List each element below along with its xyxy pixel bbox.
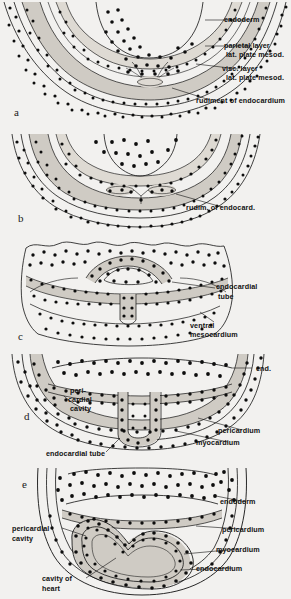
panel-c: c endocardial tube ventral mesocardium xyxy=(0,232,291,348)
label-endocardial-tube-line1: endocardial xyxy=(216,282,257,291)
label-pericardial-cavity-line1: pericardial xyxy=(12,524,49,533)
label-pericardium: pericardium xyxy=(222,525,264,534)
label-parietal-layer-line2: lat. plate mesod. xyxy=(226,50,284,59)
label-visceral-layer-line2: lat. plate mesod. xyxy=(226,73,284,82)
label-cavity-of-heart-line2: heart xyxy=(42,584,60,593)
label-endocardial-tube-line2: tube xyxy=(218,292,234,301)
label-parietal-layer-line1: parietal layer xyxy=(224,41,270,50)
panel-e: e endoderm pericardium myocardium endoca… xyxy=(0,466,291,599)
embryonic-heart-development-figure: a endoderm parietal layer lat. plate mes… xyxy=(0,0,291,599)
label-myocardium: myocardium xyxy=(216,545,260,554)
panel-d-drawing xyxy=(0,348,291,466)
panel-b: b rudim. of endocard. xyxy=(0,128,291,232)
label-endoderm: endoderm xyxy=(224,15,260,24)
label-endoderm: endoderm xyxy=(220,497,256,506)
label-rudim-endocard: rudim. of endocard. xyxy=(186,203,255,212)
panel-a: a endoderm parietal layer lat. plate mes… xyxy=(0,0,291,128)
panel-letter-c: c xyxy=(18,330,23,342)
label-visceral-layer-line1: visc. layer xyxy=(222,64,258,73)
label-pericardial-cavity-line2: cavity xyxy=(12,534,33,543)
label-myocardium: myocardium xyxy=(196,438,240,447)
panel-d: d end. peri- cardial cavity pericardium … xyxy=(0,348,291,466)
label-ventral-mesocardium-line2: mesocardium xyxy=(190,330,238,339)
label-ventral-mesocardium-line1: ventral xyxy=(190,321,214,330)
label-pericardial-cavity-line1: peri- xyxy=(70,386,86,395)
label-pericardial-cavity-line3: cavity xyxy=(70,404,91,413)
panel-letter-e: e xyxy=(22,478,27,490)
label-pericardium: pericardium xyxy=(218,426,260,435)
panel-letter-a: a xyxy=(14,106,19,118)
panel-b-drawing xyxy=(0,128,291,232)
panel-letter-b: b xyxy=(18,212,24,224)
label-pericardial-cavity-line2: cardial xyxy=(68,395,92,404)
label-cavity-of-heart-line1: cavity of xyxy=(42,574,72,583)
panel-letter-d: d xyxy=(24,410,30,422)
label-end-abbrev: end. xyxy=(256,364,271,373)
label-endocardial-tube: endocardial tube xyxy=(46,449,105,458)
label-rudiment-endocardium: rudiment of endocardium xyxy=(196,96,285,105)
label-endocardium: endocardium xyxy=(196,564,242,573)
